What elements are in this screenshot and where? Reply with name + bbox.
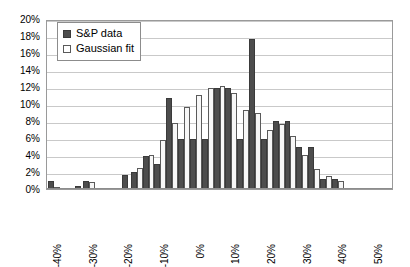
- x-axis-tick-label: -30%: [89, 244, 99, 267]
- y-axis-tick-label: 6%: [26, 134, 40, 144]
- y-axis-tick-label: 2%: [26, 168, 40, 178]
- bar-sp-data: [122, 175, 128, 189]
- chart-legend: S&P data Gaussian fit: [57, 22, 141, 61]
- bar-group: [308, 21, 320, 189]
- bar-group: [202, 21, 214, 189]
- filled-square-icon: [63, 30, 71, 38]
- empty-square-icon: [63, 45, 71, 53]
- y-axis-tick-label: 4%: [26, 151, 40, 161]
- x-axis-tick-label: 10%: [231, 244, 241, 264]
- bar-group: [166, 21, 178, 189]
- bar-group: [332, 21, 344, 189]
- legend-label-gaussian-fit: Gaussian fit: [76, 43, 134, 54]
- x-axis-tick-label: 20%: [267, 244, 277, 264]
- bar-group: [190, 21, 202, 189]
- x-axis-tick-label: 0%: [196, 244, 206, 258]
- bar-group: [214, 21, 226, 189]
- legend-label-sp-data: S&P data: [76, 28, 122, 39]
- x-axis-tick-label: 50%: [374, 244, 384, 264]
- bar-group: [237, 21, 249, 189]
- x-axis-tick-label: -20%: [124, 244, 134, 267]
- bar-group: [379, 21, 391, 189]
- x-axis-labels: -40%-30%-20%-10%0%10%20%30%40%50%: [46, 192, 393, 247]
- legend-item-sp-data: S&P data: [63, 26, 134, 41]
- bar-group: [225, 21, 237, 189]
- y-axis-tick-label: 16%: [20, 49, 40, 59]
- y-axis-tick-label: 20%: [20, 15, 40, 25]
- x-axis-tick-label: -10%: [160, 244, 170, 267]
- bar-group: [344, 21, 356, 189]
- bar-group: [356, 21, 368, 189]
- zero-baseline: [47, 188, 392, 189]
- bar-group: [320, 21, 332, 189]
- y-axis-labels: 20%18%16%14%12%10%8%6%4%2%0%: [0, 20, 44, 190]
- bar-group: [249, 21, 261, 189]
- bar-group: [143, 21, 155, 189]
- y-axis-tick-label: 10%: [20, 100, 40, 110]
- y-axis-tick-label: 14%: [20, 66, 40, 76]
- x-axis-tick-label: 40%: [338, 244, 348, 264]
- y-axis-tick-label: 8%: [26, 117, 40, 127]
- bar-group: [296, 21, 308, 189]
- bar-group: [273, 21, 285, 189]
- bar-group: [285, 21, 297, 189]
- bar-group: [261, 21, 273, 189]
- bar-group: [178, 21, 190, 189]
- bar-group: [154, 21, 166, 189]
- y-axis-tick-label: 18%: [20, 32, 40, 42]
- x-axis-tick-label: -40%: [53, 244, 63, 267]
- y-axis-tick-label: 12%: [20, 83, 40, 93]
- y-axis-tick-label: 0%: [26, 185, 40, 195]
- bar-group: [367, 21, 379, 189]
- legend-item-gaussian-fit: Gaussian fit: [63, 41, 134, 56]
- x-axis-tick-label: 30%: [303, 244, 313, 264]
